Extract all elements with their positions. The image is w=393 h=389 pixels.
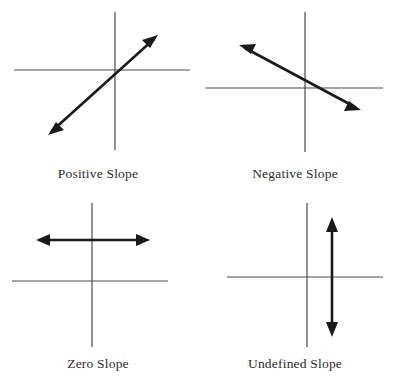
slope-types-diagram: Positive Slope Negative Slope Zero Slope bbox=[0, 0, 393, 389]
slope-panel-positive: Positive Slope bbox=[0, 0, 196, 194]
slope-panel-negative: Negative Slope bbox=[197, 0, 393, 194]
panel-label-positive: Positive Slope bbox=[0, 166, 196, 182]
panel-label-undefined: Undefined Slope bbox=[197, 356, 393, 372]
negative-slope-figure bbox=[197, 0, 393, 194]
slope-panel-undefined: Undefined Slope bbox=[197, 195, 393, 389]
slope-panel-zero: Zero Slope bbox=[0, 195, 196, 389]
positive-slope-figure bbox=[0, 0, 196, 194]
negative-slope-arrow bbox=[239, 44, 361, 111]
positive-slope-arrow bbox=[48, 35, 158, 135]
panel-label-negative: Negative Slope bbox=[197, 166, 393, 182]
panel-label-zero: Zero Slope bbox=[0, 356, 196, 372]
zero-slope-arrow bbox=[36, 234, 150, 246]
